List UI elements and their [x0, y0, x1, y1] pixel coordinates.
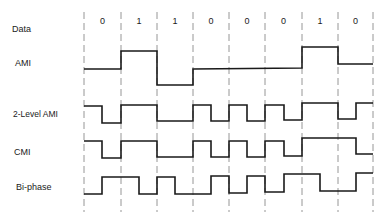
- data-bit: 0: [346, 16, 366, 26]
- ami-label: AMI: [15, 58, 31, 68]
- data-bit: 0: [237, 16, 257, 26]
- biphase-waveform: [84, 173, 373, 194]
- two-level-ami-waveform: [84, 103, 373, 123]
- two-level-ami-label: 2-Level AMI: [13, 109, 58, 119]
- ami-waveform: [84, 47, 373, 85]
- cmi-waveform: [84, 138, 373, 158]
- data-bit: 1: [165, 16, 185, 26]
- data-bit: 1: [129, 16, 149, 26]
- data-bit: 1: [310, 16, 330, 26]
- biphase-label: Bi-phase: [16, 182, 52, 192]
- data-bit: 0: [93, 16, 113, 26]
- cmi-label: CMI: [14, 147, 31, 157]
- data-bit: 0: [201, 16, 221, 26]
- data-row-label: Data: [12, 24, 31, 34]
- data-bit: 0: [274, 16, 294, 26]
- line-coding-diagram: [0, 0, 389, 220]
